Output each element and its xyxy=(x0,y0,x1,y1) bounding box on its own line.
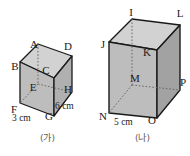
vertex-label-P: P xyxy=(180,76,186,88)
vertex-label-H: H xyxy=(64,83,72,95)
cuboid-a-drawing: A B C D E F G H 6 cm 3 cm xyxy=(0,0,95,134)
vertex-label-A: A xyxy=(30,38,38,50)
dimension-label-width-3cm: 3 cm xyxy=(12,113,31,123)
vertex-label-G: G xyxy=(45,110,53,122)
figure-b-caption: (나) xyxy=(95,132,190,144)
vertex-label-C: C xyxy=(42,64,49,76)
figure-a-caption: (가) xyxy=(0,132,95,144)
vertex-label-E: E xyxy=(30,81,37,93)
cuboid-b-drawing: I J K L M N O P 5 cm xyxy=(95,0,190,134)
vertex-label-D: D xyxy=(64,40,72,52)
vertex-label-J: J xyxy=(101,38,106,50)
dimension-label-depth-6cm: 6 cm xyxy=(55,101,74,111)
vertex-label-B: B xyxy=(11,60,18,72)
figure-panel-b: I J K L M N O P 5 cm (나) xyxy=(95,0,190,156)
vertex-label-L: L xyxy=(177,7,184,19)
vertex-label-N: N xyxy=(99,110,107,122)
figure-panel-a: A B C D E F G H 6 cm 3 cm (가) xyxy=(0,0,95,156)
vertex-label-O: O xyxy=(148,114,156,126)
vertex-label-I: I xyxy=(129,6,133,18)
vertex-label-M: M xyxy=(130,72,140,84)
dimension-label-width-5cm: 5 cm xyxy=(114,117,133,127)
vertex-label-K: K xyxy=(143,46,151,58)
figure-sheet: A B C D E F G H 6 cm 3 cm (가) I J xyxy=(0,0,190,156)
